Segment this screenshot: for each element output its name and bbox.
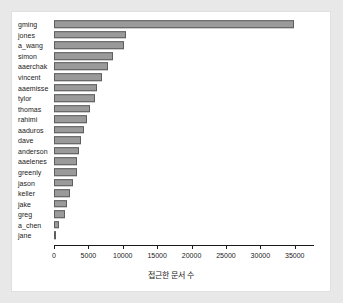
bar-row: jane xyxy=(12,230,330,241)
category-label: aaduros xyxy=(18,126,44,133)
bar-row: aaduros xyxy=(12,125,330,136)
bar xyxy=(54,94,95,102)
x-axis-tick xyxy=(192,245,193,249)
bar-row: jones xyxy=(12,30,330,41)
x-axis-tick xyxy=(295,245,296,249)
category-label: aaelenes xyxy=(18,158,47,165)
category-label: a_wang xyxy=(18,42,43,49)
category-label: jason xyxy=(18,179,35,186)
bar-row: dave xyxy=(12,135,330,146)
bar-row: aaelenes xyxy=(12,156,330,167)
bar xyxy=(54,179,73,187)
x-axis-tick-label: 10000 xyxy=(113,252,132,259)
bar xyxy=(54,200,67,208)
bar xyxy=(54,210,65,218)
x-axis-tick-label: 30000 xyxy=(251,252,270,259)
plot-area: gmingjonesa_wangsimonaaerchakvincentaaem… xyxy=(12,12,330,291)
bar xyxy=(54,31,126,39)
bar-row: aaerchak xyxy=(12,61,330,72)
bar-row: jake xyxy=(12,198,330,209)
category-label: tylor xyxy=(18,95,31,102)
bar xyxy=(54,147,79,155)
x-axis-tick xyxy=(88,245,89,249)
bar xyxy=(54,73,102,81)
bar xyxy=(54,42,124,50)
category-label: vincent xyxy=(18,74,41,81)
x-axis-tick-label: 0 xyxy=(52,252,56,259)
category-label: greg xyxy=(18,211,32,218)
bar-row: greg xyxy=(12,209,330,220)
x-axis-tick xyxy=(260,245,261,249)
bar xyxy=(54,52,113,60)
x-axis-tick-label: 20000 xyxy=(182,252,201,259)
x-axis-tick xyxy=(123,245,124,249)
x-axis-title: 접근한 문서 수 xyxy=(12,272,330,280)
category-label: jones xyxy=(18,31,35,38)
bar xyxy=(54,20,294,28)
bar xyxy=(54,115,87,123)
category-label: gming xyxy=(18,21,37,28)
bar xyxy=(54,63,108,71)
bar xyxy=(54,84,97,92)
bar xyxy=(54,126,84,134)
bar xyxy=(54,158,77,166)
category-label: greenly xyxy=(18,168,41,175)
bar xyxy=(54,231,56,239)
x-axis-tick-label: 35000 xyxy=(285,252,304,259)
category-label: aaemisse xyxy=(18,84,48,91)
category-label: simon xyxy=(18,52,37,59)
chart-figure: gmingjonesa_wangsimonaaerchakvincentaaem… xyxy=(11,11,331,292)
x-axis-tick-label: 5000 xyxy=(81,252,97,259)
bar-row: anderson xyxy=(12,146,330,157)
x-axis-line xyxy=(54,245,314,246)
bar-row: vincent xyxy=(12,72,330,83)
category-label: jane xyxy=(18,232,31,239)
category-label: dave xyxy=(18,137,33,144)
category-label: aaerchak xyxy=(18,63,47,70)
bar-row: rahimi xyxy=(12,114,330,125)
bar-row: simon xyxy=(12,51,330,62)
category-label: jake xyxy=(18,200,31,207)
bar-row: a_chen xyxy=(12,219,330,230)
bar-row: a_wang xyxy=(12,40,330,51)
x-axis-tick xyxy=(54,245,55,249)
category-label: anderson xyxy=(18,147,48,154)
bar-row: tylor xyxy=(12,93,330,104)
category-label: keller xyxy=(18,190,35,197)
bar xyxy=(54,221,59,229)
category-label: a_chen xyxy=(18,221,41,228)
bar xyxy=(54,168,77,176)
x-axis-tick-label: 25000 xyxy=(216,252,235,259)
bar xyxy=(54,105,90,113)
bar-row: thomas xyxy=(12,103,330,114)
bar-row: keller xyxy=(12,188,330,199)
bar-row: gming xyxy=(12,19,330,30)
x-axis-tick xyxy=(157,245,158,249)
bar xyxy=(54,189,70,197)
x-axis-tick-label: 15000 xyxy=(147,252,166,259)
category-label: thomas xyxy=(18,105,41,112)
x-axis-tick xyxy=(226,245,227,249)
bar-row: aaemisse xyxy=(12,82,330,93)
bar xyxy=(54,137,81,145)
bar-row: jason xyxy=(12,177,330,188)
bar-row: greenly xyxy=(12,167,330,178)
category-label: rahimi xyxy=(18,116,37,123)
